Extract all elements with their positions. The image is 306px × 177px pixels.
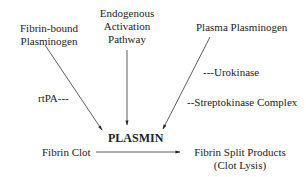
label-line: Fibrin-bound: [14, 22, 84, 35]
label-line: Plasminogen: [14, 35, 84, 48]
arrow-fibrin-bound-to-plasmin: [45, 45, 102, 130]
label-line: Endogenous: [94, 7, 160, 20]
endogenous-activation-pathway-label: Endogenous Activation Pathway: [94, 7, 160, 46]
label-line: Activation: [94, 20, 160, 33]
label-line: (Clot Lysis): [185, 159, 295, 172]
label-line: Fibrin Split Products: [185, 146, 295, 159]
plasma-plasminogen-label: Plasma Plasminogen: [196, 21, 287, 34]
arrow-plasma-to-plasmin: [163, 37, 210, 129]
streptokinase-complex-label: --Streptokinase Complex: [187, 96, 297, 109]
rtpa-label: rtPA---: [38, 92, 69, 105]
urokinase-label: ---Urokinase: [203, 66, 259, 79]
label-line: Pathway: [94, 33, 160, 46]
fibrin-bound-plasminogen-label: Fibrin-bound Plasminogen: [14, 22, 84, 48]
fibrin-split-products-label: Fibrin Split Products (Clot Lysis): [185, 146, 295, 172]
fibrin-clot-label: Fibrin Clot: [42, 146, 91, 159]
plasmin-label: PLASMIN: [108, 132, 163, 145]
